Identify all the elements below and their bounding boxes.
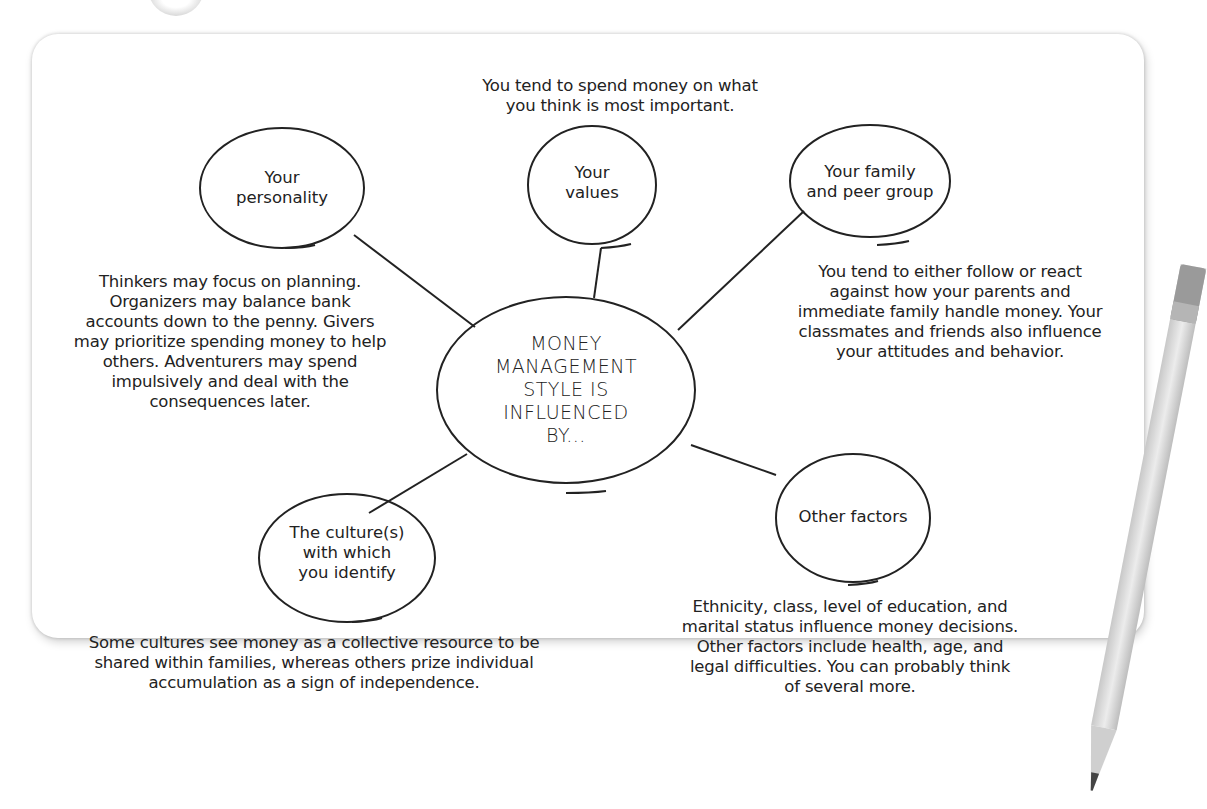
center-label: MONEY MANAGEMENT STYLE IS INFLUENCED BY.… bbox=[466, 332, 666, 447]
description-personality: Thinkers may focus on planning. Organize… bbox=[40, 272, 420, 412]
node-label-values: Your values bbox=[542, 163, 642, 203]
description-family: You tend to either follow or react again… bbox=[760, 262, 1140, 362]
node-label-other: Other factors bbox=[778, 507, 928, 527]
node-label-family: Your family and peer group bbox=[790, 162, 950, 202]
description-other: Ethnicity, class, level of education, an… bbox=[640, 597, 1060, 697]
description-values: You tend to spend money on what you thin… bbox=[440, 76, 800, 116]
description-culture: Some cultures see money as a collective … bbox=[44, 633, 584, 693]
node-label-culture: The culture(s) with which you identify bbox=[262, 523, 432, 583]
node-label-personality: Your personality bbox=[212, 168, 352, 208]
diagram-stage: MONEY MANAGEMENT STYLE IS INFLUENCED BY.… bbox=[0, 0, 1207, 809]
